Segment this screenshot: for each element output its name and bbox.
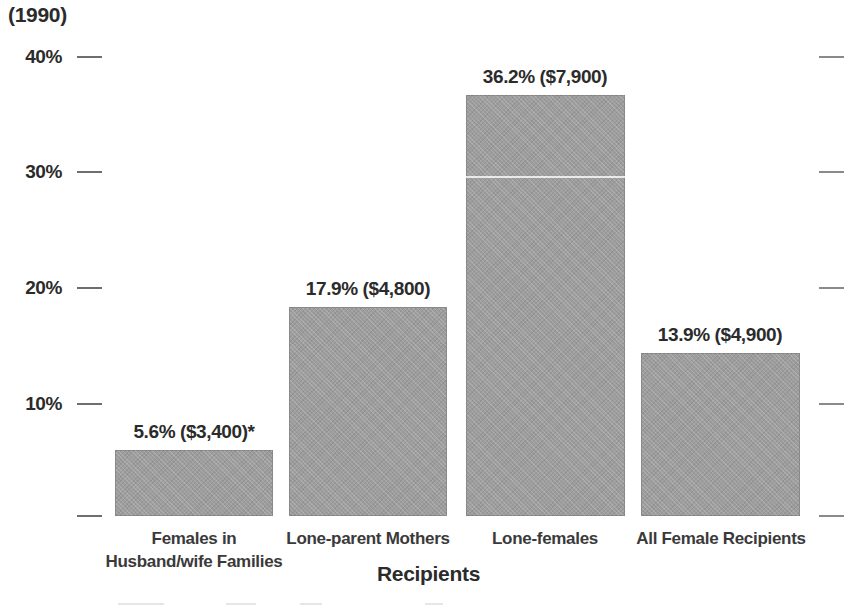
bar-all-female-recipients[interactable] [641,353,800,516]
scan-smudge [425,603,443,605]
bar-value-label-2: 17.9% ($4,800) [249,278,487,300]
bar-chart: (1990) 40% 30% 20% 10% [0,0,857,608]
scan-smudge [300,603,322,605]
bar-value-label-4: 13.9% ($4,900) [601,324,839,346]
scan-smudge [226,603,256,605]
bar-females-in-husband-wife-families[interactable] [115,450,273,516]
scan-smudge [118,603,164,605]
category-label-line-1: All Female Recipients [601,527,841,550]
bar-value-label-1: 5.6% ($3,400)* [75,421,313,443]
bar-value-label-3: 36.2% ($7,900) [426,66,664,88]
bars-layer: 5.6% ($3,400)* 17.9% ($4,800) 36.2% ($7,… [0,0,857,608]
bar-lone-females[interactable] [466,95,625,516]
category-label-all-female-recipients: All Female Recipients [601,527,841,550]
x-axis-title: Recipients [0,562,857,586]
scan-artifact-line [466,176,625,178]
bar-lone-parent-mothers[interactable] [289,307,447,516]
